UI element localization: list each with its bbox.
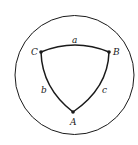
vertex-c-dot <box>39 50 43 54</box>
vertex-b-label: B <box>112 47 120 57</box>
vertex-a-dot <box>71 110 75 114</box>
side-b-label: b <box>41 85 47 95</box>
vertex-c-label: C <box>31 47 38 57</box>
side-b-arc <box>41 52 73 112</box>
side-a-label: a <box>72 35 77 45</box>
vertex-b-dot <box>107 50 111 54</box>
side-c-arc <box>73 52 109 112</box>
vertex-a-label: A <box>69 117 77 127</box>
spherical-triangle-diagram: A B C a b c <box>0 0 138 145</box>
side-a-arc <box>41 45 109 52</box>
side-c-label: c <box>102 85 107 95</box>
